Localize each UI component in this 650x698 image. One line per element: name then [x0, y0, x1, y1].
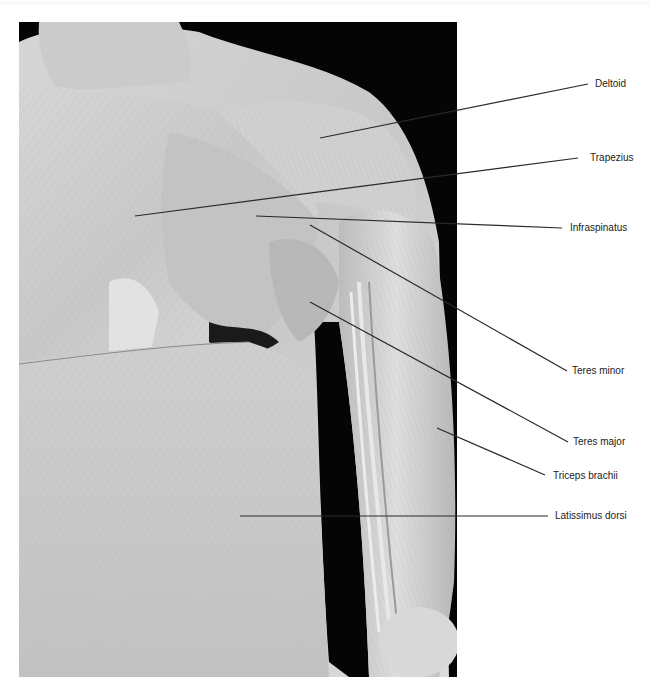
leader-line-triceps-brachii [437, 428, 545, 475]
label-teres-minor: Teres minor [572, 365, 624, 377]
label-trapezius: Trapezius [590, 152, 634, 164]
label-infraspinatus: Infraspinatus [570, 222, 627, 234]
label-deltoid: Deltoid [595, 78, 626, 90]
label-teres-major: Teres major [573, 436, 625, 448]
leader-lines [0, 0, 650, 698]
leader-line-teres-minor [310, 225, 567, 371]
leader-line-trapezius [135, 158, 578, 216]
label-triceps-brachii: Triceps brachii [553, 470, 618, 482]
label-latissimus-dorsi: Latissimus dorsi [555, 510, 627, 522]
leader-line-teres-major [310, 302, 568, 442]
leader-line-infraspinatus [256, 216, 562, 228]
leader-line-deltoid [320, 84, 588, 138]
